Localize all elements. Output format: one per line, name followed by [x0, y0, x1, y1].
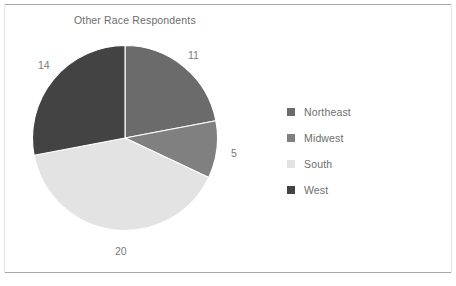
frame-left-rule	[4, 4, 5, 273]
legend-item-south[interactable]: South	[287, 151, 407, 177]
chart-title: Other Race Respondents	[74, 14, 196, 26]
chart-figure: Other Race Respondents 11 5 20 14 Northe…	[0, 0, 456, 286]
legend-item-midwest[interactable]: Midwest	[287, 125, 407, 151]
data-label-west: 14	[38, 59, 50, 71]
frame-right-rule	[451, 4, 452, 273]
legend-swatch-icon	[287, 160, 295, 168]
data-label-midwest: 5	[231, 147, 237, 159]
chart-legend: NortheastMidwestSouthWest	[287, 99, 407, 203]
legend-item-northeast[interactable]: Northeast	[287, 99, 407, 125]
legend-item-label: South	[304, 158, 332, 170]
legend-swatch-icon	[287, 186, 295, 194]
legend-item-west[interactable]: West	[287, 177, 407, 203]
frame-top-rule	[4, 4, 452, 5]
data-label-northeast: 11	[188, 49, 199, 61]
pie-chart-plot	[32, 45, 218, 231]
legend-swatch-icon	[287, 108, 295, 116]
legend-item-label: West	[304, 184, 328, 196]
data-label-south: 20	[115, 245, 127, 257]
pie-slices	[33, 46, 218, 231]
frame-bottom-rule	[4, 272, 452, 273]
legend-swatch-icon	[287, 134, 295, 142]
pie-svg	[32, 45, 218, 231]
legend-item-label: Midwest	[304, 132, 344, 144]
legend-item-label: Northeast	[304, 106, 351, 118]
